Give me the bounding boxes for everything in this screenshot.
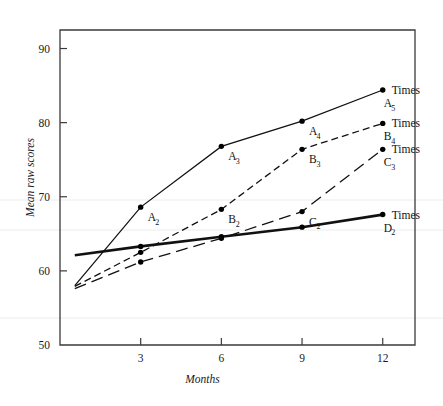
data-point-b-3: [219, 207, 224, 212]
data-point-d-2: [138, 244, 143, 249]
x-axis-tick-label: 3: [138, 352, 144, 364]
series-end-label-b: Times: [392, 117, 421, 129]
y-axis-tick-label: 50: [39, 339, 51, 351]
series-end-label-c: Times: [392, 143, 421, 155]
data-point-b-5: [380, 121, 385, 126]
point-label-subscript: 3: [236, 157, 240, 166]
series-end-id-subscript-c: 3: [391, 163, 395, 172]
point-label-subscript: 2: [236, 220, 240, 229]
point-label-b3: B3: [309, 153, 321, 169]
point-label-subscript: 4: [317, 132, 321, 141]
point-label-subscript: 3: [317, 160, 321, 169]
data-point-c-4: [299, 209, 304, 214]
series-end-label-a: Times: [392, 84, 421, 96]
data-point-d-5: [380, 212, 385, 217]
chart-figure: 908070605036912Mean raw scoresMonthsA2A3…: [0, 0, 443, 406]
series-line-b: [75, 123, 383, 286]
series-line-a: [75, 90, 383, 286]
point-label-a4: A4: [309, 125, 321, 141]
point-label-a2: A2: [148, 211, 160, 227]
x-axis-title: Months: [184, 373, 220, 385]
y-axis-tick-label: 70: [39, 191, 51, 203]
data-point-c-5: [380, 147, 385, 152]
x-axis-tick-label: 12: [377, 352, 389, 364]
data-point-b-4: [299, 147, 304, 152]
plot-frame: [60, 30, 415, 345]
y-axis-tick-label: 60: [39, 265, 51, 277]
point-label-b2: B2: [228, 213, 240, 229]
x-axis-tick-label: 6: [218, 352, 224, 364]
series-end-id-subscript-a: 5: [391, 104, 395, 113]
y-axis-title: Mean raw scores: [24, 138, 36, 218]
data-point-c-2: [138, 259, 143, 264]
line-chart: 908070605036912Mean raw scoresMonthsA2A3…: [0, 0, 443, 406]
data-point-a-4: [299, 118, 304, 123]
series-end-id-subscript-d: 2: [391, 228, 395, 237]
data-point-a-3: [219, 144, 224, 149]
data-point-d-4: [299, 224, 304, 229]
data-point-a-5: [380, 87, 385, 92]
series-end-label-d: Times: [392, 209, 421, 221]
y-axis-tick-label: 80: [39, 117, 51, 129]
data-point-a-2: [138, 204, 143, 209]
point-label-subscript: 2: [155, 218, 159, 227]
y-axis-tick-label: 90: [39, 43, 51, 55]
x-axis-tick-label: 9: [299, 352, 305, 364]
data-point-d-3: [219, 234, 224, 239]
data-point-b-2: [138, 250, 143, 255]
point-label-a3: A3: [228, 150, 240, 166]
